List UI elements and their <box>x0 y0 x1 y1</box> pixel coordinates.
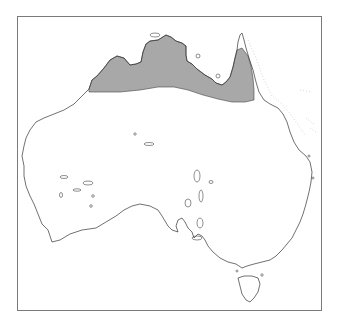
tasmania-coastline <box>238 276 260 302</box>
island <box>134 133 136 135</box>
island <box>261 274 263 276</box>
island <box>196 54 200 58</box>
lake-gairdner <box>185 199 191 207</box>
lake-wa-1 <box>60 176 68 179</box>
australia-map <box>0 0 338 327</box>
island <box>236 270 238 272</box>
island <box>312 177 314 179</box>
lake-wa-2 <box>83 181 93 185</box>
island <box>308 155 310 157</box>
lake-wa-3 <box>73 189 81 191</box>
spencer-gulf-island <box>197 218 203 228</box>
distribution-range <box>89 35 254 102</box>
lake-wa-6 <box>90 205 93 208</box>
melville-island <box>150 33 160 37</box>
kangaroo-island <box>192 236 202 240</box>
reef-dots <box>248 40 306 136</box>
lake-wa-4 <box>60 193 63 198</box>
lake-frome <box>209 181 213 184</box>
lake-wa-5 <box>92 195 95 198</box>
lake-torrens <box>199 190 203 202</box>
lake-amadeus <box>144 143 154 146</box>
groote-eylandt <box>216 74 220 78</box>
lake-eyre <box>194 170 200 182</box>
reef-dots-coral-sea <box>300 90 316 132</box>
